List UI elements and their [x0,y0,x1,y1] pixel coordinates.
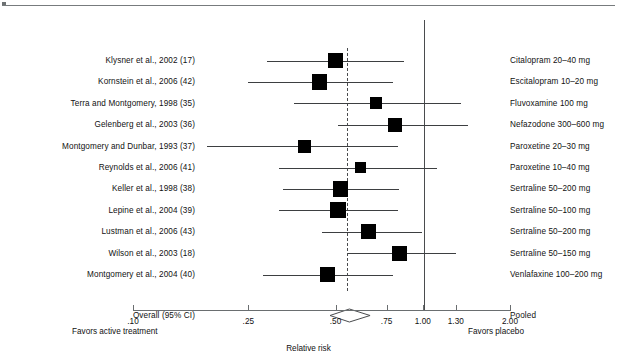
study-label: Lustman et al., 2006 (43) [101,227,195,236]
x-axis-tick [336,305,337,311]
effect-size-marker [355,162,366,173]
study-label: Gelenberg et al., 2003 (36) [94,120,195,129]
effect-size-marker [388,118,402,132]
drug-label: Venlafaxine 100–200 mg [510,270,602,279]
confidence-interval-line [338,125,468,126]
x-axis-tick [387,305,388,311]
pooled-estimate-line [347,48,348,291]
top-rule-divider [2,5,615,6]
effect-size-marker [330,202,346,218]
drug-label: Escitalopram 10–20 mg [510,77,598,86]
study-label: Lepine et al., 2004 (39) [108,206,195,215]
x-axis-tick-label: 1.00 [415,317,431,326]
study-label: Kornstein et al., 2006 (42) [98,77,195,86]
effect-size-marker [370,97,382,109]
x-axis-tick-label: .25 [243,317,254,326]
drug-label: Sertraline 50–200 mg [510,184,590,193]
x-axis-tick-label: .75 [381,317,392,326]
study-label: Wilson et al., 2003 (18) [108,249,195,258]
overall-label: Overall (95% CI) [133,311,195,320]
x-axis-tick [133,305,134,311]
x-axis-tick-label: 2.00 [502,317,518,326]
x-axis-tick-label: 1.30 [448,317,464,326]
effect-size-marker [333,181,349,197]
x-axis-tick [510,305,511,311]
effect-size-marker [312,74,327,89]
study-label: Terra and Montgomery, 1998 (35) [71,99,195,108]
drug-label: Citalopram 20–40 mg [510,56,590,65]
x-axis-tick-label: .50 [330,317,341,326]
null-effect-line [424,20,425,311]
x-axis-tick-label: .10 [127,317,138,326]
drug-label: Paroxetine 20–30 mg [510,142,590,151]
drug-label: Sertraline 50–200 mg [510,227,590,236]
study-label: Keller et al., 1998 (38) [112,184,195,193]
drug-label: Fluvoxamine 100 mg [510,99,588,108]
study-label: Montgomery and Dunbar, 1993 (37) [62,142,195,151]
x-axis-tick [456,305,457,311]
effect-size-marker [320,267,335,282]
study-label: Klysner et al., 2002 (17) [106,56,195,65]
drug-label: Paroxetine 10–40 mg [510,163,590,172]
axis-caption-left: Favors active treatment [72,327,158,336]
effect-size-marker [392,246,407,261]
effect-size-marker [361,224,376,239]
effect-size-marker [298,140,311,153]
drug-label: Sertraline 50–150 mg [510,249,590,258]
x-axis-line [133,310,510,311]
x-axis-title: Relative risk [0,344,617,353]
drug-label: Nefazodone 300–600 mg [510,120,604,129]
axis-caption-right: Favors placebo [468,327,524,336]
x-axis-tick [248,305,249,311]
x-axis-tick [423,305,424,311]
study-label: Reynolds et al., 2006 (41) [99,163,195,172]
study-label: Montgomery et al., 2004 (40) [87,270,195,279]
drug-label: Sertraline 50–100 mg [510,206,590,215]
effect-size-marker [328,53,343,68]
forest-plot-figure: Klysner et al., 2002 (17)Citalopram 20–4… [0,0,617,364]
